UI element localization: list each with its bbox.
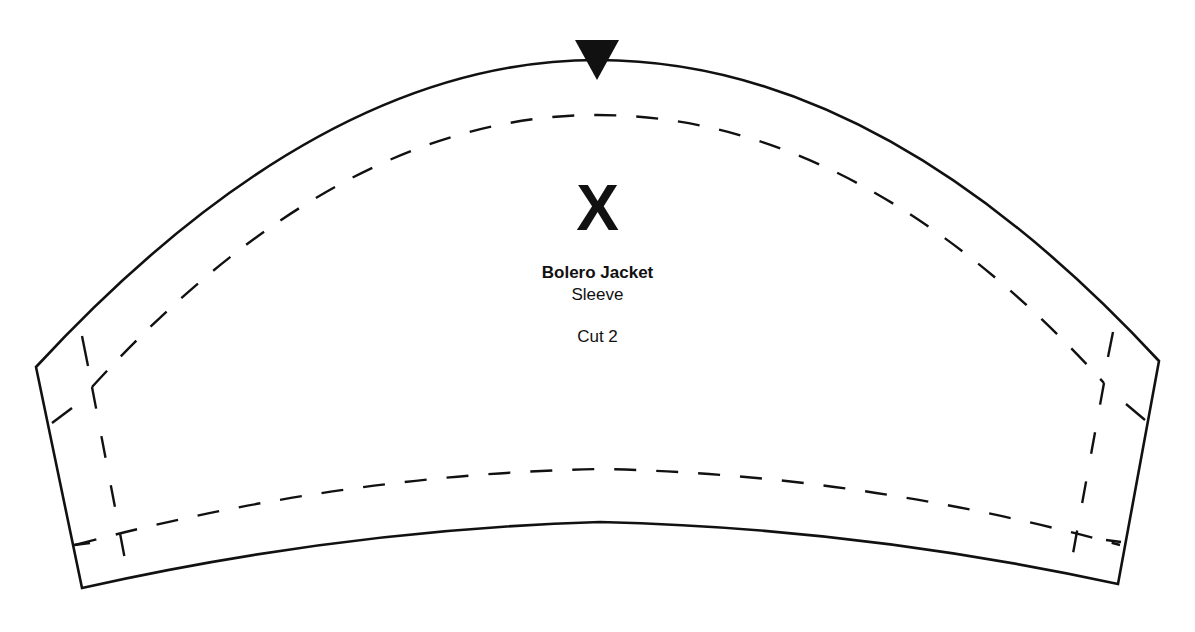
cutting-line: [36, 60, 1159, 588]
stitching-line-bottom: [75, 469, 1120, 545]
seam-tick-right-diag: [1126, 404, 1145, 420]
stitching-line-left: [92, 387, 127, 570]
placement-marker-x: X: [0, 172, 1195, 244]
pattern-title: Bolero Jacket: [0, 263, 1195, 283]
stitching-line-right: [1070, 383, 1104, 570]
seam-tick-left-diag: [52, 408, 72, 423]
piece-name: Sleeve: [0, 285, 1195, 305]
seam-tick-right-bottom: [1106, 540, 1121, 542]
cut-instruction: Cut 2: [0, 327, 1195, 347]
pattern-piece-sleeve: [0, 0, 1195, 632]
seam-tick-left-bottom: [74, 543, 90, 545]
